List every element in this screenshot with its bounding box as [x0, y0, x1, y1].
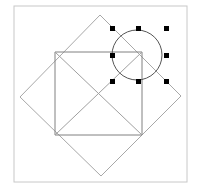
drawing-frame-border — [14, 6, 187, 182]
handle-bottom-left[interactable] — [110, 79, 115, 84]
selected-circle-shape[interactable] — [112, 30, 162, 80]
handle-middle-left[interactable] — [110, 53, 115, 58]
handle-middle-right[interactable] — [164, 53, 169, 58]
handle-bottom-center[interactable] — [136, 79, 141, 84]
handle-bottom-right[interactable] — [164, 79, 169, 84]
geometry-figure — [0, 0, 199, 190]
handle-top-left[interactable] — [110, 26, 115, 31]
handle-top-center[interactable] — [136, 26, 141, 31]
drawing-canvas[interactable] — [0, 0, 199, 190]
handle-top-right[interactable] — [164, 26, 169, 31]
